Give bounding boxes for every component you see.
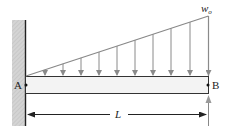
fixed-wall-support [12, 20, 26, 126]
point-b-label: B [212, 79, 219, 91]
load-arrows [45, 16, 209, 75]
distributed-load [26, 16, 209, 76]
cantilever-diagram: wo A B L [0, 0, 230, 138]
length-dimension: L [28, 108, 206, 120]
length-label: L [114, 108, 121, 120]
point-b-marker [207, 84, 210, 87]
reference-arrowhead [206, 95, 212, 103]
point-a-marker [25, 84, 28, 87]
load-max-label: wo [201, 2, 212, 16]
beam [25, 77, 210, 94]
point-a-label: A [14, 79, 22, 91]
